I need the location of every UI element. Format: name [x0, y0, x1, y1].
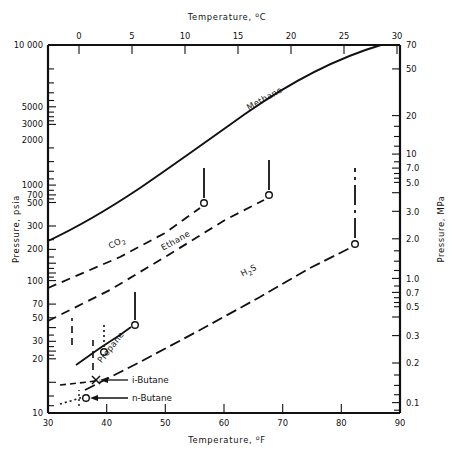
right-tick-label: 0.5 — [406, 302, 419, 312]
top-tick-label: 30 — [392, 31, 403, 41]
left-axis-title: Pressure, psia — [11, 195, 21, 263]
left-tick-label: 50 — [32, 313, 43, 323]
co2-endpoint-marker — [201, 200, 208, 207]
chart-svg: 0 5 10 15 20 25 30 Temperature, oC 30 40… — [0, 0, 455, 451]
right-tick-label: 70 — [406, 40, 417, 50]
chart-background — [0, 0, 455, 451]
top-tick-label: 5 — [129, 31, 134, 41]
right-tick-label: 0.7 — [406, 288, 419, 298]
right-tick-label: 10 — [406, 149, 417, 159]
left-tick-label: 70 — [32, 299, 43, 309]
top-axis-title-composed: Temperature, oC — [187, 11, 267, 22]
right-tick-label: 5.0 — [406, 178, 419, 188]
left-tick-label: 5000 — [22, 102, 43, 112]
right-tick-label: 3.0 — [406, 207, 419, 217]
right-tick-label: 0.3 — [406, 331, 419, 341]
right-tick-label: 2.0 — [406, 234, 419, 244]
n-butane-endpoint-marker — [83, 395, 90, 402]
bottom-tick-label: 50 — [160, 418, 171, 428]
bottom-tick-label: 40 — [101, 418, 112, 428]
right-tick-label: 0.1 — [406, 398, 419, 408]
vapor-pressure-chart: 0 5 10 15 20 25 30 Temperature, oC 30 40… — [0, 0, 455, 451]
i-butane-label: i-Butane — [132, 375, 169, 385]
bottom-tick-label: 70 — [277, 418, 288, 428]
bottom-tick-label: 80 — [336, 418, 347, 428]
top-tick-label: 15 — [233, 31, 244, 41]
left-tick-label: 3000 — [22, 119, 43, 129]
right-tick-label: 20 — [406, 111, 417, 121]
bottom-tick-label: 30 — [43, 418, 54, 428]
propane-endpoint-marker — [132, 322, 139, 329]
top-tick-label: 25 — [339, 31, 350, 41]
left-tick-label: 300 — [27, 221, 43, 231]
left-tick-label: 2000 — [22, 135, 43, 145]
left-tick-label: 500 — [27, 198, 43, 208]
bottom-tick-label: 60 — [219, 418, 230, 428]
left-tick-label: 1000 — [22, 180, 43, 190]
h2s-endpoint-marker — [352, 241, 359, 248]
top-tick-label: 0 — [76, 31, 81, 41]
ethane-endpoint-marker — [266, 192, 273, 199]
left-tick-label: 200 — [27, 244, 43, 254]
n-butane-label: n-Butane — [132, 393, 172, 403]
left-tick-label: 20 — [32, 354, 43, 364]
left-tick-label: 100 — [27, 276, 43, 286]
top-tick-label: 10 — [180, 31, 191, 41]
left-tick-label: 10 000 — [14, 40, 43, 50]
left-tick-label: 10 — [32, 408, 43, 418]
bottom-axis-title: Temperature, oF — [187, 434, 266, 445]
right-axis-title: Pressure, MPa — [436, 195, 446, 262]
right-tick-label: 7.0 — [406, 163, 419, 173]
left-tick-label: 30 — [32, 336, 43, 346]
top-tick-label: 20 — [286, 31, 297, 41]
right-tick-label: 1.0 — [406, 274, 419, 284]
bottom-tick-label: 90 — [395, 418, 406, 428]
right-tick-label: 50 — [406, 64, 417, 74]
right-tick-label: 0.2 — [406, 358, 419, 368]
